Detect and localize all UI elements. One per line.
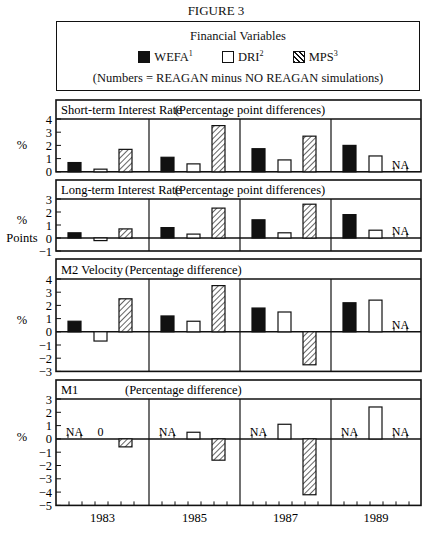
y-axis-label: % — [17, 430, 27, 444]
bar-dri — [94, 169, 107, 172]
na-annotation: NA — [392, 425, 410, 439]
x-tick-label: 1983 — [90, 511, 115, 525]
bar-mps — [119, 439, 132, 447]
y-tick-label: −4 — [39, 486, 53, 500]
panel-title: M2 Velocity — [61, 263, 124, 277]
y-tick-label: 0 — [46, 432, 52, 446]
bar-dri — [369, 300, 382, 332]
panel-subtitle: (Percentage point differences) — [175, 103, 325, 117]
panel-long-term-interest-rate: Long-term Interest Rate(Percentage point… — [6, 180, 421, 259]
panel-title: Long-term Interest Rate — [61, 183, 182, 197]
bar-dri — [278, 312, 291, 332]
bar-wefa — [161, 228, 174, 238]
bar-dri — [187, 321, 200, 332]
y-tick-label: 3 — [46, 393, 52, 407]
y-tick-label: 4 — [46, 113, 53, 127]
y-tick-label: 2 — [46, 299, 52, 313]
bar-dri — [369, 156, 382, 172]
y-tick-label: 0 — [46, 165, 52, 179]
y-tick-label: 2 — [46, 206, 52, 220]
bar-mps — [212, 286, 225, 332]
bar-dri — [187, 432, 200, 439]
bar-mps — [119, 149, 132, 171]
x-tick-label: 1989 — [364, 511, 389, 525]
bar-wefa — [252, 149, 265, 172]
bar-mps — [212, 439, 225, 460]
bar-dri — [369, 230, 382, 238]
na-annotation: NA — [250, 425, 268, 439]
panel-title: M1 — [61, 383, 78, 397]
panel-subtitle: (Percentage difference) — [125, 263, 242, 277]
y-tick-label: 4 — [46, 273, 53, 287]
na-annotation: NA — [159, 425, 177, 439]
x-tick-label: 1985 — [182, 511, 207, 525]
y-tick-label: −1 — [39, 339, 52, 353]
panel-title: Short-term Interest Rate — [61, 103, 182, 117]
y-axis-label: Points — [6, 231, 37, 245]
bar-mps — [303, 136, 316, 172]
y-tick-label: 3 — [46, 126, 52, 140]
y-axis-label: % — [17, 313, 27, 327]
y-tick-label: −1 — [39, 446, 52, 460]
y-tick-label: 2 — [46, 406, 52, 420]
bar-wefa — [343, 145, 356, 171]
y-tick-label: 2 — [46, 139, 52, 153]
bar-wefa — [161, 157, 174, 172]
panel-short-term-interest-rate: Short-term Interest Rate(Percentage poin… — [17, 100, 421, 179]
bar-wefa — [343, 215, 356, 238]
bar-wefa — [343, 303, 356, 332]
y-tick-label: −5 — [39, 499, 52, 513]
y-tick-label: 0 — [46, 325, 52, 339]
y-tick-label: −3 — [39, 365, 52, 379]
y-tick-label: 3 — [46, 193, 52, 207]
na-annotation: NA — [341, 425, 359, 439]
panel-m1: M1(Percentage difference)−5−4−3−2−10123%… — [17, 380, 421, 525]
bar-wefa — [68, 233, 81, 238]
y-axis-label: % — [17, 213, 27, 227]
y-axis-label: % — [17, 138, 27, 152]
bar-mps — [212, 208, 225, 238]
y-tick-label: 1 — [46, 219, 52, 233]
bar-mps — [212, 126, 225, 172]
bar-mps — [119, 229, 132, 238]
panel-subtitle: (Percentage point differences) — [175, 183, 325, 197]
panel-subtitle: (Percentage difference) — [125, 383, 242, 397]
y-tick-label: −1 — [39, 245, 52, 259]
na-annotation: NA — [66, 425, 84, 439]
bar-wefa — [252, 308, 265, 332]
bar-mps — [303, 204, 316, 238]
y-tick-label: −3 — [39, 472, 52, 486]
y-tick-label: 3 — [46, 286, 52, 300]
x-tick-label: 1987 — [273, 511, 298, 525]
bar-dri — [187, 234, 200, 238]
y-tick-label: 1 — [46, 152, 52, 166]
na-annotation: NA — [392, 158, 410, 172]
bar-wefa — [68, 321, 81, 332]
panel-m2-velocity: M2 Velocity(Percentage difference)−3−2−1… — [17, 259, 421, 379]
bar-dri — [278, 160, 291, 172]
y-tick-label: 0 — [46, 232, 52, 246]
bar-wefa — [161, 316, 174, 332]
bar-dri — [278, 424, 291, 439]
y-tick-label: 1 — [46, 419, 52, 433]
y-tick-label: 1 — [46, 312, 52, 326]
na-annotation: NA — [392, 224, 410, 238]
bar-mps — [303, 439, 316, 495]
y-tick-label: −2 — [39, 352, 52, 366]
na-annotation: NA — [392, 318, 410, 332]
na-annotation: 0 — [98, 425, 104, 439]
chart-panels: Short-term Interest Rate(Percentage poin… — [0, 0, 432, 533]
bar-dri — [369, 407, 382, 439]
bar-dri — [94, 238, 107, 241]
bar-dri — [94, 332, 107, 341]
y-tick-label: −2 — [39, 459, 52, 473]
bar-mps — [119, 299, 132, 332]
bar-wefa — [68, 163, 81, 172]
bar-dri — [278, 233, 291, 238]
bar-wefa — [252, 220, 265, 238]
bar-mps — [303, 332, 316, 365]
bar-dri — [187, 164, 200, 172]
